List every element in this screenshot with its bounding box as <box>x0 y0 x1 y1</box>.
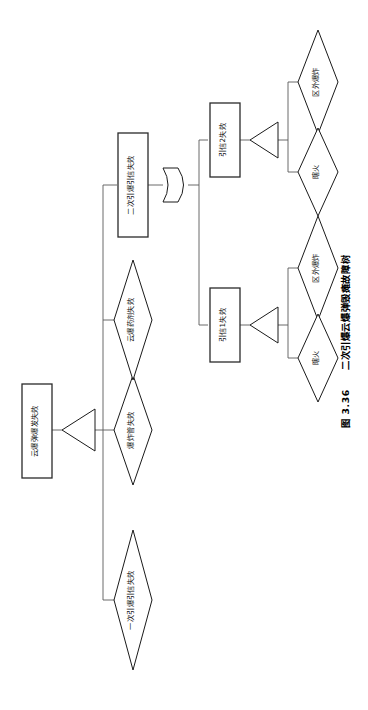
connector-lines <box>52 82 298 600</box>
fault-tree-diagram: 云爆弹爆发失效 一次引爆引信失效 爆炸管失效 云爆药剂失效 二次引爆引信失效 引… <box>0 0 368 710</box>
primary-fuze-label: 一次引爆引信失效 <box>126 570 135 629</box>
figure-page: 云爆弹爆发失效 一次引爆引信失效 爆炸管失效 云爆药剂失效 二次引爆引信失效 引… <box>0 0 368 710</box>
fuze1-label: 引信1失效 <box>218 308 227 343</box>
node-burst-tube-fail[interactable]: 爆炸管失效 <box>114 375 152 485</box>
agent-label: 云爆药剂失效 <box>126 298 135 342</box>
node-outside-blast-b[interactable]: 区外爆炸 <box>298 216 338 320</box>
gates <box>62 122 278 451</box>
node-fuze1-fail[interactable]: 引信1失效 <box>210 288 240 362</box>
outside-blast-a-label: 区外爆炸 <box>311 67 320 97</box>
figure-number: 图 3.36 <box>340 389 351 428</box>
misfire-a-label: 瞎火 <box>311 165 320 180</box>
node-top-event[interactable]: 云爆弹爆发失效 <box>22 384 52 478</box>
node-fuze2-fail[interactable]: 引信2失效 <box>210 103 240 177</box>
node-outside-blast-a[interactable]: 区外爆炸 <box>298 30 338 134</box>
node-primary-fuze-fail[interactable]: 一次引爆引信失效 <box>114 530 152 670</box>
secondary-fuze-label: 二次引爆引信失效 <box>126 155 135 214</box>
node-misfire-a[interactable]: 瞎火 <box>298 128 338 216</box>
or-gate-secondary-fuze <box>163 168 184 202</box>
node-secondary-fuze-fail[interactable]: 二次引爆引信失效 <box>118 133 148 237</box>
figure-caption: 图 3.36 二次引爆云爆弹毁瘫故障树 <box>340 254 351 428</box>
node-agent-fail[interactable]: 云爆药剂失效 <box>114 260 152 380</box>
figure-caption-text: 二次引爆云爆弹毁瘫故障树 <box>340 254 351 370</box>
triangle-gate-top <box>62 409 95 451</box>
top-event-label: 云爆弹爆发失效 <box>30 405 39 457</box>
outside-blast-b-label: 区外爆炸 <box>311 253 320 283</box>
fuze2-label: 引信2失效 <box>218 123 227 158</box>
burst-tube-label: 爆炸管失效 <box>126 412 135 449</box>
misfire-b-label: 瞎火 <box>311 351 320 366</box>
node-misfire-b[interactable]: 瞎火 <box>298 314 338 402</box>
triangle-gate-fuze1 <box>250 307 278 343</box>
triangle-gate-fuze2 <box>250 122 278 158</box>
